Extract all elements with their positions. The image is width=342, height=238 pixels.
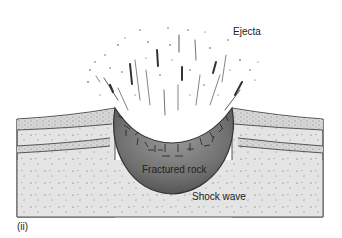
ejecta-spray bbox=[96, 35, 242, 115]
ejecta-particles bbox=[87, 27, 258, 95]
shock-wave-label: Shock wave bbox=[192, 191, 246, 202]
fractured-rock-label: Fractured rock bbox=[142, 164, 206, 175]
ejecta-label: Ejecta bbox=[233, 26, 261, 37]
impact-crater-diagram bbox=[0, 0, 342, 238]
panel-label: (ii) bbox=[17, 221, 28, 232]
